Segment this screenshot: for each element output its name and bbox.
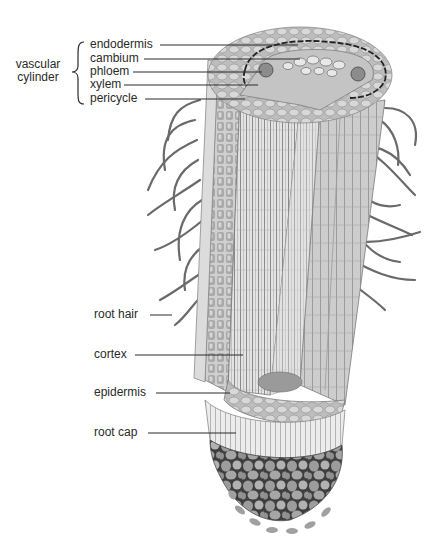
label-xylem: xylem [90, 78, 121, 91]
phloem-bundle-right [351, 67, 365, 81]
label-root-hair: root hair [94, 308, 138, 321]
label-pericycle: pericycle [90, 92, 137, 105]
phloem-bundle-left [259, 63, 273, 77]
label-endodermis: endodermis [90, 38, 153, 51]
vascular-cylinder-line2: cylinder [2, 71, 74, 84]
label-root-cap: root cap [94, 426, 137, 439]
label-epidermis: epidermis [94, 386, 146, 399]
label-cortex: cortex [94, 348, 127, 361]
vascular-cylinder-label: vascular cylinder [2, 58, 74, 84]
